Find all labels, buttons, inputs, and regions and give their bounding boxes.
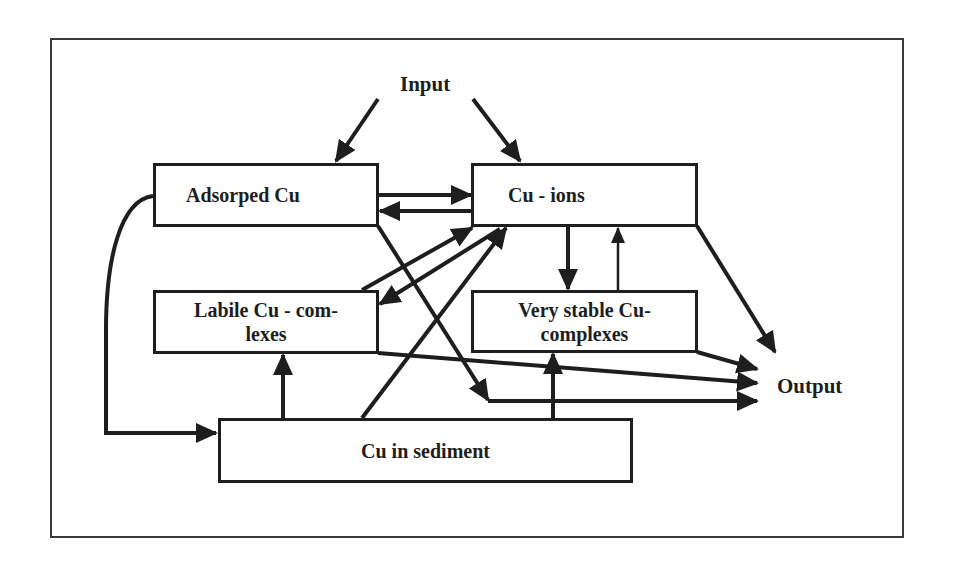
input-label: Input	[400, 72, 450, 97]
arrow-input-to-adsorped	[336, 99, 378, 161]
node-labile-line2: lexes	[245, 322, 286, 346]
arrow-labile-to-output	[378, 353, 757, 383]
arrow-stable-to-output	[697, 352, 757, 369]
node-cu-ions: Cu - ions	[471, 163, 698, 227]
connector-layer	[0, 0, 954, 570]
node-adsorped-cu-label: Adsorped Cu	[186, 183, 300, 207]
node-adsorped-cu: Adsorped Cu	[153, 163, 379, 227]
node-stable-line2: complexes	[541, 322, 629, 346]
arrow-input-to-ions	[473, 99, 520, 161]
node-sediment-label: Cu in sediment	[361, 439, 490, 463]
node-labile-line1: Labile Cu - com-	[194, 298, 338, 322]
copper-flow-diagram: Input Output Adsorped Cu Cu - ions Labil…	[0, 0, 954, 570]
node-labile-cu-complexes: Labile Cu - com- lexes	[153, 290, 379, 354]
node-very-stable-cu-complexes: Very stable Cu- complexes	[471, 290, 698, 353]
node-cu-in-sediment: Cu in sediment	[218, 418, 633, 483]
node-cu-ions-label: Cu - ions	[508, 183, 585, 207]
output-label: Output	[777, 374, 842, 399]
arrow-ions-to-output	[697, 226, 775, 352]
node-stable-line1: Very stable Cu-	[518, 298, 651, 322]
